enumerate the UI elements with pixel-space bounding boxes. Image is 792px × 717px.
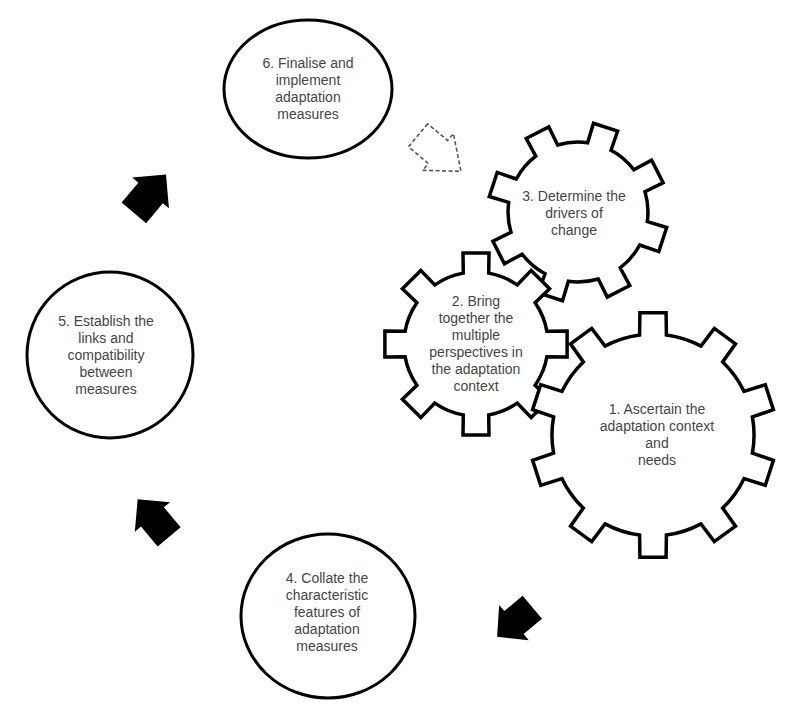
step-3-label: 3. Determine the drivers of change: [522, 188, 626, 239]
step-6-label: 6. Finalise and implement adaptation mea…: [262, 55, 353, 123]
arrow-down-left-icon: [482, 590, 547, 655]
step-5-label: 5. Establish the links and compatibility…: [58, 313, 154, 398]
dashed-arrow-down-right-icon: [403, 117, 477, 190]
step-1-label: 1. Ascertain the adaptation context and …: [590, 401, 725, 469]
step-4-label: 4. Collate the characteristic features o…: [286, 570, 369, 655]
arrow-up-right-icon: [115, 159, 184, 228]
step-2-label: 2. Bring together the multiple perspecti…: [429, 293, 522, 395]
arrow-up-left-icon: [120, 485, 187, 552]
